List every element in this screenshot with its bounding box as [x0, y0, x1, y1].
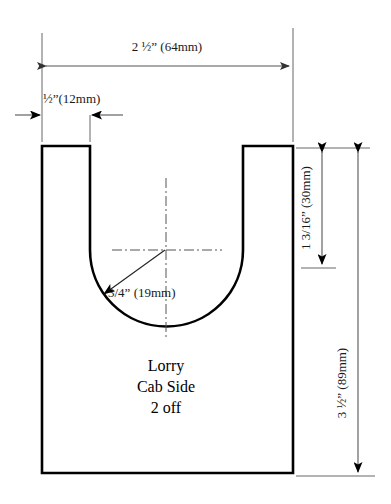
overall-width-label: 2 ½” (64mm): [132, 39, 202, 54]
notch-radius-dimension-group: 3/4” (19mm): [104, 250, 176, 300]
side-strip-label: ½”(12mm): [43, 91, 100, 106]
part-title-line-2: Cab Side: [137, 378, 195, 395]
part-outline-path: [42, 146, 293, 473]
notch-depth-label: 1 3/16” (30mm): [298, 166, 313, 250]
side-strip-dimension-group: ½”(12mm): [15, 91, 123, 142]
overall-height-label: 3 ½” (89mm): [334, 348, 349, 418]
part-title-line-3: 2 off: [151, 399, 182, 416]
overall-width-dimension-group: 2 ½” (64mm): [42, 28, 293, 142]
drawing-svg: 2 ½” (64mm) ½”(12mm) 1 3/16” (30mm) 3 ½”…: [0, 0, 391, 504]
notch-depth-dimension-group: 1 3/16” (30mm): [296, 148, 370, 268]
part-outline-group: [42, 146, 293, 473]
centerline-group: [112, 178, 222, 338]
technical-drawing-canvas: 2 ½” (64mm) ½”(12mm) 1 3/16” (30mm) 3 ½”…: [0, 0, 391, 504]
notch-radius-label: 3/4” (19mm): [108, 285, 176, 300]
part-title-line-1: Lorry: [148, 357, 184, 375]
